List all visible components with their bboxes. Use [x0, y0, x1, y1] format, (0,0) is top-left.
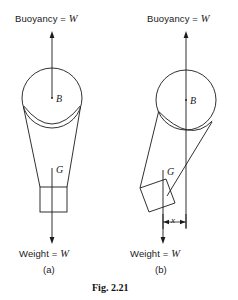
panel-sublabel-a: (a) — [43, 265, 55, 275]
buoyancy-arrow-head-a — [50, 31, 55, 38]
buoyancy-text-b: Buoyancy = — [147, 13, 198, 24]
weight-text-b: Weight = — [130, 248, 168, 259]
buoyancy-label-a: Buoyancy = W — [15, 14, 78, 25]
offset-dimension-label-b: x — [171, 216, 175, 225]
buoyancy-value-a: W — [69, 13, 78, 24]
basket-rect-b — [140, 179, 175, 212]
weight-arrow-head-a — [50, 237, 55, 244]
dim-arrow-head-right-b — [180, 220, 186, 224]
balloon-bottom-arc-a — [24, 106, 80, 124]
balloon-bottom-arc-b — [158, 111, 212, 130]
buoyancy-label-b: Buoyancy = W — [147, 14, 210, 25]
figure-caption: Fig. 2.21 — [92, 282, 128, 293]
buoyancy-arrow-head-b — [184, 31, 189, 38]
weight-text-a: Weight = — [19, 248, 57, 259]
point-b-marker-a — [51, 97, 53, 99]
weight-arrow-head-b — [161, 237, 166, 244]
gravity-center-label-a: G — [56, 165, 63, 175]
dim-arrow-head-left-b — [164, 220, 170, 224]
gravity-center-label-b: G — [167, 167, 174, 177]
panel-a-geometry — [22, 31, 82, 244]
weight-value-a: W — [60, 248, 69, 259]
weight-value-b: W — [171, 248, 180, 259]
skirt-right-b — [167, 122, 212, 196]
point-b-marker-b — [185, 99, 187, 101]
weight-label-b: Weight = W — [130, 249, 180, 260]
panel-sublabel-b: (b) — [155, 265, 167, 275]
buoyancy-text-a: Buoyancy = — [15, 13, 66, 24]
figure-canvas: Buoyancy = W B G Weight = W (a) Buoyancy… — [0, 0, 238, 300]
panel-b-geometry — [140, 31, 216, 244]
basket-rect-a — [40, 187, 67, 212]
weight-label-a: Weight = W — [19, 249, 69, 260]
skirt-left-b — [140, 112, 159, 188]
buoyancy-center-label-a: B — [56, 94, 62, 104]
buoyancy-center-label-b: B — [190, 96, 196, 106]
buoyancy-value-b: W — [201, 13, 210, 24]
